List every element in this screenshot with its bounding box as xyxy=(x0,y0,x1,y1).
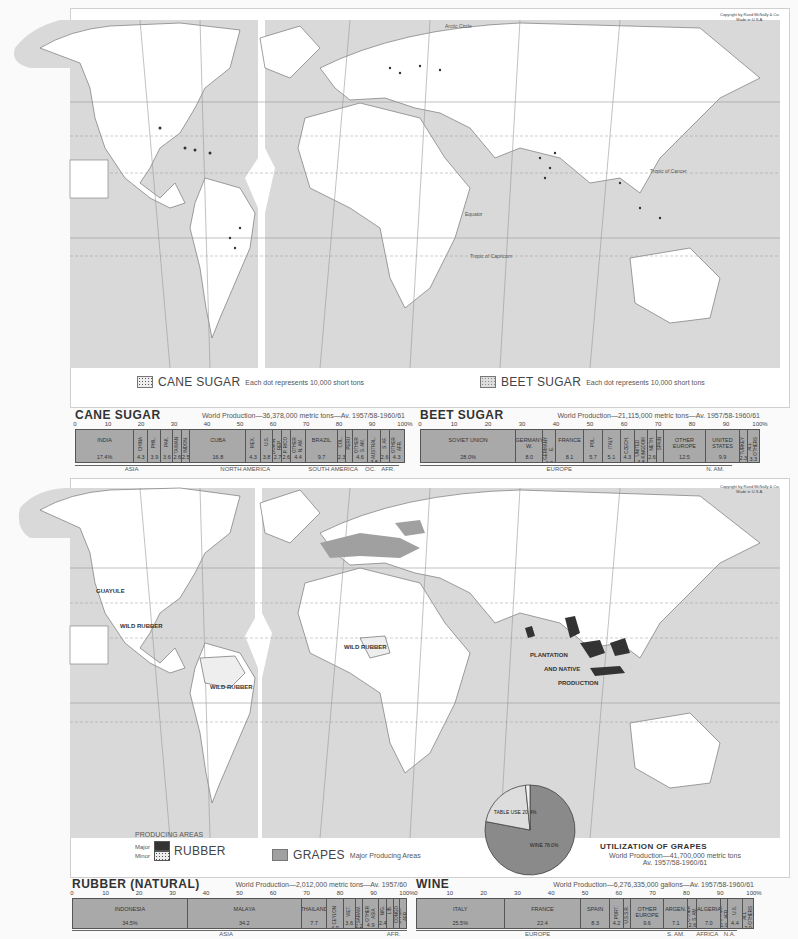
segment-value: 25.5% xyxy=(452,920,468,926)
axis-tick: 10 xyxy=(446,890,453,896)
region-span: OC. xyxy=(364,465,377,473)
axis-tick: 80 xyxy=(683,890,690,896)
bar-segment: OTHER S. AM.4.6 xyxy=(353,430,368,462)
bar-segment: AUSTRAL.3.8 xyxy=(368,430,381,462)
segment-value: 3.3 xyxy=(749,456,757,462)
segment-value: 9.6 xyxy=(643,920,651,926)
rubber-grapes-world-map xyxy=(0,478,798,838)
segment-value: 3.8 xyxy=(546,460,554,462)
segment-label: OTHER EUROPE xyxy=(631,906,663,918)
segment-label: FRANCE xyxy=(558,437,581,443)
axis-tick: 80 xyxy=(336,421,343,427)
label-wild-rubber-africa: WILD RUBBER xyxy=(344,644,387,650)
segment-value: 9.9 xyxy=(719,454,727,460)
segment-label: P. RICO xyxy=(283,437,289,453)
bar-segment: INDON.2.5 xyxy=(182,430,190,462)
cane-sugar-bar: INDIA17.4%CHINA4.3PHIL.3.9PAK.3.6TAIWAN2… xyxy=(75,429,405,463)
segment-label: OTHER S. AM. xyxy=(354,437,366,454)
region-span: EUROPE xyxy=(416,930,659,938)
bar-segment: MEX.4.3 xyxy=(246,430,260,462)
segment-value: 7.7 xyxy=(310,920,318,926)
axis-tick: 10 xyxy=(102,890,109,896)
bar-segment: POL.5.7 xyxy=(584,430,603,462)
segment-value: 3.8 xyxy=(370,459,378,462)
beet-sugar-axis: 0102030405060708090100% xyxy=(420,421,760,429)
arctic-circle-label: Arctic Circle xyxy=(445,23,472,29)
axis-tick: 0 xyxy=(70,890,73,896)
segment-label: ALL OTHERS xyxy=(748,437,759,456)
axis-tick: 50 xyxy=(587,421,594,427)
segment-label: UNITED KINGDOM xyxy=(635,437,647,459)
segment-value: 34.5% xyxy=(122,920,138,926)
segment-value: 2.9 xyxy=(744,925,752,928)
bar-segment: GERMANY W.8.0 xyxy=(516,430,543,462)
segment-label: POL. xyxy=(590,437,596,447)
segment-label: PORT. xyxy=(614,906,620,919)
segment-label: SPAIN xyxy=(587,906,603,912)
wine-bar: ITALY25.5%FRANCE22.4SPAIN8.3PORT.4.2U.S.… xyxy=(416,898,754,929)
segment-value: 8.1 xyxy=(566,454,574,460)
segment-label: SPAIN xyxy=(657,437,663,450)
region-span: ASIA xyxy=(72,930,380,938)
label-and-native: AND NATIVE xyxy=(544,666,580,672)
segment-label: GERMANY E. xyxy=(543,437,555,460)
segment-label: UNITED STATES xyxy=(706,437,739,449)
segment-value: 4.3 xyxy=(137,454,145,460)
axis-tick: 100% xyxy=(746,890,761,896)
bar-segment: PHIL.3.9 xyxy=(148,430,161,462)
axis-tick: 30 xyxy=(169,890,176,896)
bar-segment: INDONESIA34.5% xyxy=(73,899,188,928)
cane-sugar-swatch xyxy=(137,376,153,388)
rubber-minor-swatch xyxy=(154,851,170,861)
region-span: AFR. xyxy=(380,930,407,938)
bar-segment: MALAYA34.2 xyxy=(188,899,302,928)
axis-tick: 40 xyxy=(548,890,555,896)
segment-label: ALL OTHERS xyxy=(743,906,753,925)
bar-segment: U.S.3.8 xyxy=(261,430,274,462)
segment-value: 16.8 xyxy=(213,454,224,460)
segment-value: 4.6 xyxy=(356,454,364,460)
axis-tick: 70 xyxy=(303,421,310,427)
label-plantation: PLANTATION xyxy=(530,652,568,658)
segment-label: SOVIET UNION xyxy=(448,437,487,443)
segment-value: 8.3 xyxy=(591,920,599,926)
grapes-swatch xyxy=(272,849,288,861)
segment-value: 22.4 xyxy=(537,920,548,926)
legend-grapes: GRAPES Major Producing Areas xyxy=(272,848,421,862)
bar-segment: FRANCE8.1 xyxy=(556,430,584,462)
segment-label: ITALY xyxy=(608,437,614,449)
segment-label: GERMANY W. xyxy=(516,437,543,449)
axis-tick: 30 xyxy=(514,890,521,896)
axis-tick: 10 xyxy=(451,421,458,427)
segment-label: CEYLON xyxy=(332,906,338,925)
segment-label: NIG. xyxy=(380,906,386,915)
segment-label: TAIWAN xyxy=(174,437,180,454)
label-wild-rubber-central: WILD RUBBER xyxy=(120,623,163,629)
label-production: PRODUCTION xyxy=(558,680,598,686)
segment-value: 2.6 xyxy=(282,454,290,460)
equator-label: Equator xyxy=(465,211,483,217)
axis-tick: 30 xyxy=(171,421,178,427)
bar-segment: TAIWAN2.6 xyxy=(173,430,182,462)
wine-chart: WINE World Production—6,276,335,000 gall… xyxy=(416,877,754,937)
axis-tick: 80 xyxy=(337,890,344,896)
bar-segment: U.S.S.R. xyxy=(624,899,631,928)
axis-tick: 60 xyxy=(621,421,628,427)
cane-sugar-regions: ASIANORTH AMERICASOUTH AMERICAOC.AFR. xyxy=(75,465,405,473)
axis-tick: 50 xyxy=(582,890,589,896)
region-span: N.A. xyxy=(722,930,737,938)
segment-value: 7.0 xyxy=(705,920,713,926)
region-span: NORTH AMERICA xyxy=(188,465,302,473)
segment-label: ARGEN. xyxy=(665,906,686,912)
segment-label: BRAZIL xyxy=(312,437,331,443)
bar-segment: NIG.2.4 xyxy=(379,899,387,928)
bar-segment: OTHER S. AM.2.6 xyxy=(688,899,697,928)
pie-label: TABLE USE 20.4% xyxy=(494,809,537,815)
bar-segment: SOVIET UNION28.0% xyxy=(421,430,516,462)
segment-label: S. AF. xyxy=(382,437,388,449)
segment-value: 4.3 xyxy=(249,454,257,460)
segment-value: 4.3 xyxy=(393,454,401,460)
axis-tick: 70 xyxy=(303,890,310,896)
hawaii-inset xyxy=(70,160,108,198)
bar-segment: ALL OTHERS2.9 xyxy=(743,899,753,928)
